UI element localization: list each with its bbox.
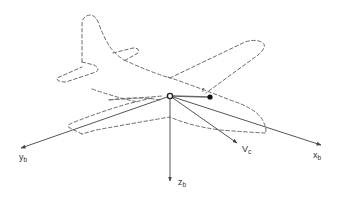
fuselage-bottom-outline xyxy=(82,117,265,134)
position-vector-line xyxy=(172,96,209,97)
right-wing-outline xyxy=(170,40,264,93)
x-axis-label: xb xyxy=(313,151,321,162)
left-stabilizer-outline xyxy=(57,62,98,82)
x-axis-line xyxy=(170,96,321,145)
aircraft-axes-diagram xyxy=(0,0,338,197)
velocity-label: Vc xyxy=(242,145,251,156)
fuselage-top-outline xyxy=(124,60,170,78)
velocity-label-sub: c xyxy=(248,148,251,155)
origin-marker xyxy=(167,93,172,98)
y-axis-label-sub: b xyxy=(24,156,28,163)
fuselage-tail-bottom-outline xyxy=(92,89,138,102)
position-vector-label: r xyxy=(202,86,204,93)
z-axis-label: zb xyxy=(178,178,186,189)
axes xyxy=(21,96,321,181)
velocity-vector-line xyxy=(170,96,237,143)
y-axis-line xyxy=(21,96,170,148)
y-axis-label: yb xyxy=(19,153,27,164)
point-mass-marker xyxy=(207,94,212,99)
right-stabilizer-outline xyxy=(113,48,139,61)
vertical-tail-outline xyxy=(82,15,124,62)
x-axis-label-sub: b xyxy=(318,154,322,161)
z-axis-label-sub: b xyxy=(183,181,187,188)
position-vector-label-text: r xyxy=(202,86,204,93)
